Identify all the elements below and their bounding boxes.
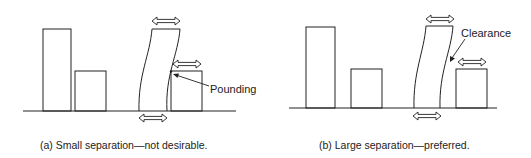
double-arrow-icon <box>139 114 167 122</box>
short-building <box>75 71 106 111</box>
caption-b: (b) Large separation—preferred. <box>319 139 470 151</box>
pounding-label: Pounding <box>210 83 257 95</box>
figure-canvas: Pounding (a) Small separation—not desira… <box>0 0 531 158</box>
swaying-tower <box>414 26 453 108</box>
tall-building <box>43 29 71 111</box>
double-arrow-icon <box>458 58 486 66</box>
adjacent-low-building <box>456 69 487 108</box>
double-arrow-icon <box>173 60 201 68</box>
double-arrow-icon <box>426 15 454 23</box>
clearance-label: Clearance <box>461 27 511 39</box>
adjacent-low-building <box>171 71 202 111</box>
pounding-leader-arrow <box>170 70 209 86</box>
caption-a: (a) Small separation—not desirable. <box>40 139 208 151</box>
short-building <box>351 69 382 108</box>
tall-building <box>306 27 335 108</box>
double-arrow-icon <box>152 17 180 25</box>
panel-b: Clearance (b) Large separation—preferred… <box>289 15 511 151</box>
panel-a: Pounding (a) Small separation—not desira… <box>23 17 257 151</box>
double-arrow-icon <box>413 112 441 120</box>
swaying-tower <box>139 29 180 111</box>
